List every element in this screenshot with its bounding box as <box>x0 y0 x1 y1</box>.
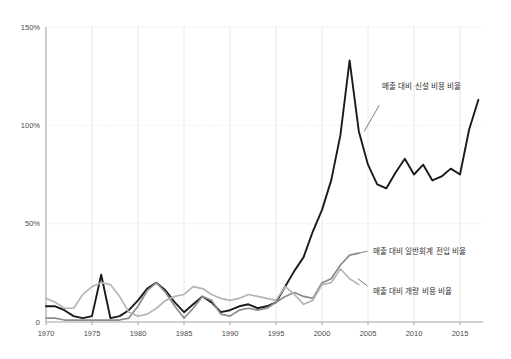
x-tick-1970: 1970 <box>38 329 55 338</box>
y-tick-0: 0 <box>36 318 40 327</box>
x-tick-1975: 1975 <box>84 329 101 338</box>
y-tick-150: 150% <box>21 23 41 32</box>
x-tick-1980: 1980 <box>130 329 147 338</box>
chart-container: 050%100%150% 197019751980198519901995200… <box>0 0 511 359</box>
x-tick-1990: 1990 <box>222 329 239 338</box>
x-tick-2015: 2015 <box>452 329 469 338</box>
x-tick-1985: 1985 <box>176 329 193 338</box>
series-label-1: 매출 대비 일반회계 전입 비율 <box>373 246 467 256</box>
x-tick-1995: 1995 <box>268 329 285 338</box>
line-chart: 050%100%150% 197019751980198519901995200… <box>0 0 511 359</box>
x-tick-2005: 2005 <box>360 329 377 338</box>
y-tick-50: 50% <box>25 219 40 228</box>
x-tick-2000: 2000 <box>314 329 331 338</box>
series-label-0: 매출 대비 신설 비용 비율 <box>382 81 462 91</box>
series-label-2: 매출 대비 개량 비용 비율 <box>373 286 453 296</box>
y-tick-100: 100% <box>21 121 41 130</box>
x-tick-2010: 2010 <box>406 329 423 338</box>
